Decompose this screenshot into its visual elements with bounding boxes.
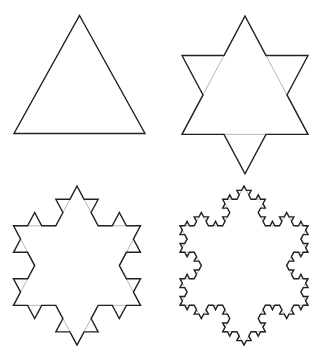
koch-snowflake-diagram [0,0,325,358]
snowflake-outline [182,16,308,174]
snowflake-outline [180,186,308,345]
previous-iteration-outline [14,186,141,345]
snowflake-outline [14,186,141,345]
koch-iteration-2 [14,186,141,345]
koch-iteration-3 [180,186,308,345]
koch-iteration-0 [14,16,145,134]
previous-iteration-outline [180,186,308,345]
snowflake-outline [14,16,145,134]
previous-iteration-outline [182,16,308,134]
koch-iteration-1 [182,16,308,174]
